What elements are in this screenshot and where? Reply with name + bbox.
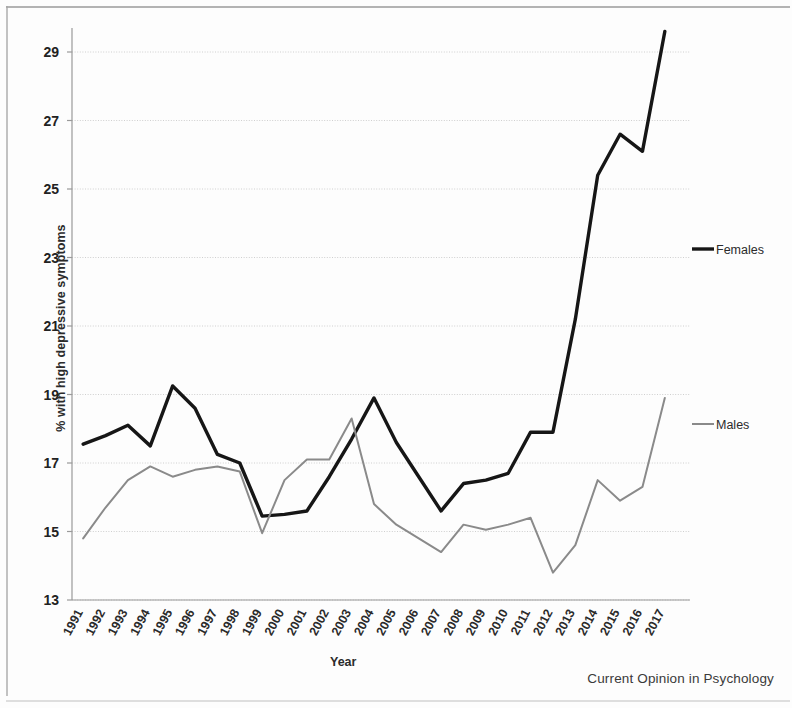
y-tick-label-15: 15	[43, 524, 59, 540]
x-tick-label-1996: 1996	[172, 607, 197, 638]
y-tick-label-29: 29	[43, 44, 59, 60]
series-line-males	[83, 398, 665, 573]
series-line-females	[83, 31, 665, 516]
x-tick-label-1999: 1999	[239, 607, 264, 638]
x-tick-label-2010: 2010	[485, 607, 510, 638]
x-tick-label-2006: 2006	[396, 607, 421, 638]
x-tick-label-2012: 2012	[530, 607, 555, 638]
x-tick-label-2002: 2002	[306, 607, 331, 638]
x-tick-label-2000: 2000	[262, 607, 287, 638]
gridlines	[72, 52, 690, 600]
x-tick-label-2003: 2003	[329, 607, 354, 638]
x-axis-title: Year	[330, 655, 356, 669]
x-tick-label-1997: 1997	[195, 607, 220, 638]
x-axis-tick-labels: 1991199219931994199519961997199819992000…	[60, 607, 667, 638]
x-tick-label-2009: 2009	[463, 607, 488, 638]
x-tick-label-1998: 1998	[217, 607, 242, 638]
x-tick-label-1995: 1995	[150, 607, 175, 638]
data-series	[83, 31, 665, 572]
x-tick-label-1994: 1994	[128, 607, 153, 638]
y-tick-label-27: 27	[43, 113, 59, 129]
x-tick-label-2017: 2017	[642, 607, 667, 638]
x-tick-label-2011: 2011	[508, 607, 533, 638]
x-tick-label-1991: 1991	[60, 607, 85, 638]
axis-lines	[72, 28, 690, 600]
x-tick-label-2005: 2005	[374, 607, 399, 638]
journal-footer: Current Opinion in Psychology	[587, 671, 774, 686]
line-chart-figure: 131517192123252729 199119921993199419951…	[0, 0, 792, 708]
x-tick-label-2013: 2013	[553, 607, 578, 638]
x-tick-label-2016: 2016	[620, 607, 645, 638]
y-axis-title: % with high depressive symptoms	[54, 178, 68, 478]
chart-canvas: 131517192123252729 199119921993199419951…	[0, 0, 792, 708]
x-tick-label-2015: 2015	[597, 607, 622, 638]
x-tick-label-2004: 2004	[351, 607, 376, 638]
legend-label-females: Females	[716, 243, 764, 257]
legend-swatches	[692, 249, 714, 424]
x-tick-label-1992: 1992	[83, 607, 108, 638]
x-tick-label-2008: 2008	[441, 607, 466, 638]
x-tick-label-2001: 2001	[284, 607, 309, 638]
legend-label-males: Males	[716, 418, 749, 432]
y-tick-label-13: 13	[43, 592, 59, 608]
x-tick-label-2014: 2014	[575, 607, 600, 638]
x-tick-label-1993: 1993	[105, 607, 130, 638]
x-tick-label-2007: 2007	[418, 607, 443, 638]
